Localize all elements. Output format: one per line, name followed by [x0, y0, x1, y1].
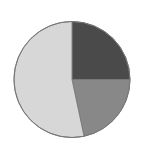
pie-chart-figure — [0, 0, 145, 154]
pie-slice-group — [14, 22, 130, 138]
pie-chart-svg — [0, 0, 145, 154]
